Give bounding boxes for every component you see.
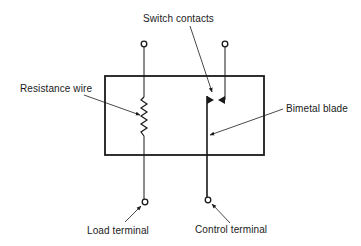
resistance-wire-leader-arrow [84, 95, 140, 115]
bimetal-blade-label: Bimetal blade [286, 103, 348, 114]
resistance-wire-label: Resistance wire [20, 83, 92, 94]
top-left-terminal [141, 41, 147, 47]
load-terminal-leader-arrow [125, 206, 141, 222]
load-terminal-icon [142, 199, 148, 205]
right-contact-icon [218, 96, 225, 104]
left-contact-icon [207, 96, 214, 104]
schematic-drawing [0, 0, 361, 246]
top-right-terminal [222, 41, 228, 47]
control-terminal-icon [205, 197, 211, 203]
housing-box [105, 76, 264, 155]
switch-contacts-leader-arrow [190, 26, 212, 92]
control-terminal-leader-arrow [212, 204, 230, 223]
diagram-canvas: Switch contacts Resistance wire Bimetal … [0, 0, 361, 246]
resistance-wire-zigzag [141, 97, 147, 136]
control-terminal-label: Control terminal [195, 224, 267, 235]
bimetal-blade-leader-arrow [210, 109, 283, 135]
switch-contacts-label: Switch contacts [143, 13, 214, 24]
load-terminal-label: Load terminal [87, 225, 149, 236]
